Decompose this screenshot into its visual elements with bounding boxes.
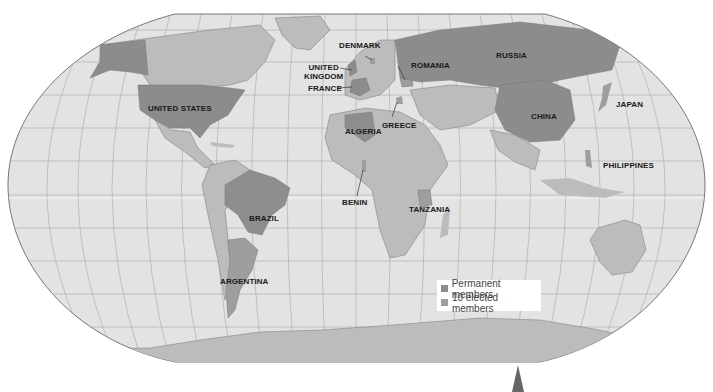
label-united-states: UNITED STATES xyxy=(148,104,212,113)
label-tanzania: TANZANIA xyxy=(409,205,450,214)
pointer-triangle xyxy=(512,365,524,392)
legend-label-elected: 10 elected members xyxy=(452,292,541,314)
label-china: CHINA xyxy=(531,112,557,121)
label-benin: BENIN xyxy=(342,198,367,207)
label-united-kingdom: UNITED KINGDOM xyxy=(304,63,343,81)
label-brazil: BRAZIL xyxy=(249,214,279,223)
label-japan: JAPAN xyxy=(616,100,643,109)
label-denmark: DENMARK xyxy=(339,41,381,50)
label-argentina: ARGENTINA xyxy=(220,277,268,286)
legend: Permanent members 10 elected members xyxy=(437,280,541,311)
label-greece: GREECE xyxy=(382,121,416,130)
label-philippines: PHILIPPINES xyxy=(603,161,654,170)
label-united-kingdom-line1: UNITED xyxy=(304,63,343,72)
legend-swatch-permanent xyxy=(441,285,448,292)
label-russia: RUSSIA xyxy=(496,51,527,60)
label-algeria: ALGERIA xyxy=(345,127,382,136)
label-france: FRANCE xyxy=(308,84,342,93)
world-map xyxy=(0,0,713,392)
label-united-kingdom-line2: KINGDOM xyxy=(304,72,343,81)
legend-swatch-elected xyxy=(441,299,448,306)
label-romania: ROMANIA xyxy=(411,61,450,70)
legend-item-elected: 10 elected members xyxy=(441,296,541,309)
